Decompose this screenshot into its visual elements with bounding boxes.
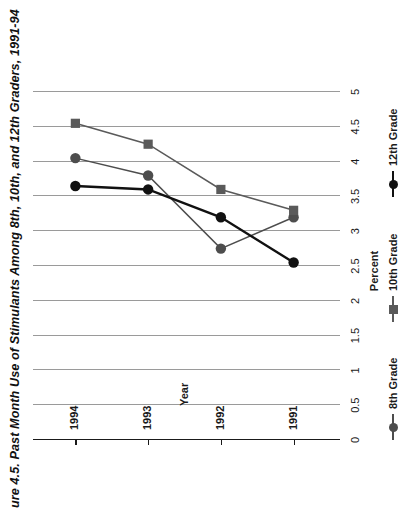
percent-tick-1.5: 1.5 [349,328,361,343]
legend-marker-circle-icon [389,180,398,189]
year-label-1992: 1992 [214,406,226,430]
percent-tick-0: 0 [349,437,361,443]
data-point-8th-grade-1992 [216,243,226,253]
percent-tick-4: 4 [349,159,361,165]
data-point-12th-grade-1993 [143,184,153,194]
percent-tick-4.5: 4.5 [349,119,361,134]
legend-swatch-circle-icon [386,171,400,197]
percent-tick-2.5: 2.5 [349,258,361,273]
figure-title: ure 4.5. Past Month Use of Stimulants Am… [8,0,22,508]
percent-tick-3: 3 [349,228,361,234]
data-point-10th-grade-1994 [71,119,80,128]
data-point-10th-grade-1992 [216,185,225,194]
legend-marker-circle-icon [389,423,398,432]
percent-axis-title: Percent [368,0,380,502]
chart-legend: 8th Grade10th Grade12th Grade [386,92,410,440]
legend-label: 10th Grade [387,234,399,291]
data-point-8th-grade-1994 [70,153,80,163]
legend-label: 12th Grade [387,109,399,166]
legend-marker-square-icon [389,305,398,314]
percent-tick-1: 1 [349,367,361,373]
data-point-12th-grade-1991 [288,257,298,267]
data-point-10th-grade-1991 [289,206,298,215]
legend-swatch-square-icon [386,296,400,322]
legend-swatch-circle-icon [386,414,400,440]
percent-tick-3.5: 3.5 [349,189,361,204]
data-point-10th-grade-1993 [144,140,153,149]
year-label-1993: 1993 [141,406,153,430]
data-point-12th-grade-1992 [216,212,226,222]
percent-tick-2: 2 [349,298,361,304]
legend-item-10th-grade[interactable]: 10th Grade [386,234,400,322]
year-axis-title: Year [178,383,190,406]
legend-label: 8th Grade [387,358,399,409]
percent-tick-0.5: 0.5 [349,398,361,413]
data-point-12th-grade-1994 [70,181,80,191]
percent-tick-5: 5 [349,89,361,95]
series-line-10th-grade [75,123,293,210]
legend-item-12th-grade[interactable]: 12th Grade [386,109,400,197]
legend-item-8th-grade[interactable]: 8th Grade [386,358,400,440]
data-point-8th-grade-1993 [143,170,153,180]
series-line-12th-grade [75,186,293,263]
year-label-1994: 1994 [68,406,80,430]
year-label-1991: 1991 [287,406,299,430]
